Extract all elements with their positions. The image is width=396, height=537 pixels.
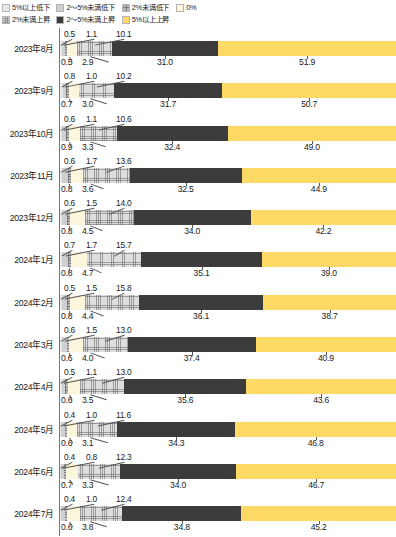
value-tick (326, 352, 327, 355)
bar-segment-up5[interactable] (263, 295, 396, 310)
bar-segment-up5[interactable] (236, 464, 396, 479)
value-tick (176, 437, 177, 440)
value-label-top: 1.1 (86, 367, 97, 377)
bar-segment-up5[interactable] (256, 337, 396, 352)
legend-swatch-down25-icon (56, 4, 64, 12)
value-label-bottom: 3.6 (82, 184, 93, 194)
bar-segment-up25[interactable] (117, 126, 228, 141)
stacked-bar (60, 506, 396, 521)
chart-row: 2023年9月0.81.010.20.73.031.750.7 (0, 70, 396, 112)
chart-row: 2024年7月0.41.012.40.63.834.845.2 (0, 493, 396, 535)
bar-segment-up2[interactable] (78, 464, 120, 479)
value-label-bottom: 0.8 (61, 268, 72, 278)
bar-segment-up5[interactable] (262, 252, 396, 267)
bar-segment-up25[interactable] (117, 422, 235, 437)
bar-segment-up2[interactable] (85, 295, 139, 310)
value-tick (172, 141, 173, 144)
bar-segment-up25[interactable] (120, 464, 236, 479)
value-tick (329, 267, 330, 270)
bar-segment-up25[interactable] (112, 41, 218, 56)
legend-item-down2[interactable]: 2%未満低下 (122, 3, 169, 12)
bar-segment-up2[interactable] (77, 41, 112, 56)
bar-segment-up2[interactable] (80, 126, 116, 141)
value-label-bottom: 4.5 (82, 226, 93, 236)
bar-segment-up5[interactable] (218, 41, 396, 56)
stacked-bar-chart: 2023年8月0.51.110.10.52.931.051.92023年9月0.… (0, 28, 396, 536)
bar-segment-up25[interactable] (134, 210, 251, 225)
bar-segment-up5[interactable] (241, 506, 396, 521)
value-tick (316, 437, 317, 440)
value-label-top: 0.6 (64, 156, 75, 166)
legend-label: 5%以上低下 (12, 3, 49, 12)
value-label-bottom: 0.8 (61, 226, 72, 236)
bar-segment-up25[interactable] (141, 252, 262, 267)
bar-segment-up25[interactable] (114, 83, 223, 98)
bar-segment-up5[interactable] (246, 379, 396, 394)
chart-row: 2023年12月0.61.514.00.84.534.042.2 (0, 197, 396, 239)
bar-segment-up5[interactable] (235, 422, 396, 437)
value-tick (316, 479, 317, 482)
category-label: 2024年7月 (0, 509, 54, 519)
legend-item-down5[interactable]: 5%以上低下 (2, 3, 49, 12)
value-label-top: 0.6 (64, 325, 75, 335)
stacked-bar (60, 41, 396, 56)
legend-label: 2～5%未満低下 (66, 3, 114, 12)
bar-segment-up2[interactable] (83, 337, 128, 352)
value-tick (178, 479, 179, 482)
bar-segment-up2[interactable] (83, 168, 130, 183)
value-label-bottom: 3.5 (82, 395, 93, 405)
stacked-bar (60, 379, 396, 394)
value-label-bottom: 3.1 (82, 438, 93, 448)
legend-item-zero[interactable]: 0% (176, 3, 196, 12)
legend-item-up25[interactable]: 2～5%未満上昇 (56, 15, 114, 24)
legend-row-2: 2%未満上昇2～5%未満上昇5%以上上昇 (2, 14, 396, 25)
bar-segment-up25[interactable] (139, 295, 263, 310)
legend-item-down25[interactable]: 2～5%未満低下 (56, 3, 114, 12)
value-label-top: 11.6 (116, 410, 131, 420)
value-label-top: 0.5 (64, 367, 75, 377)
legend-item-up2[interactable]: 2%未満上昇 (2, 15, 49, 24)
value-tick (192, 225, 193, 228)
stacked-bar (60, 295, 396, 310)
chart-row: 2023年11月0.61.713.60.83.632.544.9 (0, 155, 396, 197)
bar-segment-zero[interactable] (71, 252, 87, 267)
stacked-bar (60, 252, 396, 267)
chart-row: 2024年5月0.41.011.60.63.134.346.8 (0, 409, 396, 451)
value-tick (319, 183, 320, 186)
value-label-bottom: 2.9 (82, 57, 93, 67)
value-tick (307, 56, 308, 59)
bar-segment-up5[interactable] (242, 168, 396, 183)
legend-item-up5[interactable]: 5%以上上昇 (122, 15, 169, 24)
bar-segment-up5[interactable] (228, 126, 396, 141)
category-label: 2023年11月 (0, 171, 54, 181)
value-label-top: 1.7 (86, 156, 97, 166)
value-label-top: 0.4 (64, 452, 75, 462)
category-label: 2023年12月 (0, 213, 54, 223)
bar-segment-up2[interactable] (77, 422, 117, 437)
bar-segment-up25[interactable] (128, 337, 256, 352)
stacked-bar (60, 83, 396, 98)
category-label: 2024年6月 (0, 467, 54, 477)
bar-segment-up25[interactable] (124, 379, 246, 394)
plot-area: 0.61.513.00.64.037.440.9 (60, 337, 396, 352)
plot-area: 0.40.812.30.73.334.046.7 (60, 464, 396, 479)
legend-swatch-up25-icon (56, 16, 64, 24)
chart-row: 2024年4月0.51.113.00.63.535.643.6 (0, 366, 396, 408)
value-label-bottom: 3.0 (82, 99, 93, 109)
value-label-bottom: 3.8 (82, 522, 93, 532)
value-label-top: 1.5 (86, 325, 97, 335)
value-tick (202, 267, 203, 270)
value-label-top: 10.6 (116, 114, 132, 124)
plot-area: 0.41.012.40.63.834.845.2 (60, 506, 396, 521)
category-label: 2023年8月 (0, 44, 54, 54)
value-label-top: 1.5 (86, 283, 97, 293)
bar-segment-up5[interactable] (251, 210, 396, 225)
value-tick (323, 225, 324, 228)
plot-area: 0.51.113.00.63.535.643.6 (60, 379, 396, 394)
bar-segment-up25[interactable] (122, 506, 241, 521)
value-label-top: 10.1 (116, 29, 132, 39)
value-label-bottom: 4.7 (82, 268, 93, 278)
bar-segment-up5[interactable] (222, 83, 396, 98)
bar-segment-up25[interactable] (130, 168, 242, 183)
chart-legend: 5%以上低下2～5%未満低下2%未満低下0%2%未満上昇2～5%未満上昇5%以上… (0, 0, 396, 26)
